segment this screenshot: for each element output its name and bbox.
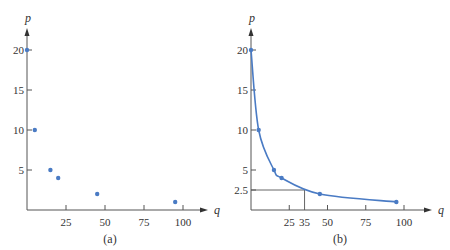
data-point [173, 200, 177, 204]
panel-caption: (b) [333, 232, 347, 246]
x-axis-arrow-icon [424, 208, 432, 213]
x-tick-label: 25 [284, 216, 296, 228]
figure: pq5101520255075100(a) pq2.55101520253550… [0, 0, 450, 250]
guide-lines [251, 190, 305, 210]
data-point [279, 176, 283, 180]
y-tick-label: 2.5 [234, 184, 248, 196]
x-tick-label: 75 [360, 216, 372, 228]
x-axis-arrow-icon [200, 208, 208, 213]
data-point [25, 48, 29, 52]
y-tick-label: 15 [13, 84, 25, 96]
y-axis-arrow-icon [25, 28, 30, 36]
y-tick-label: 10 [237, 124, 249, 136]
panel-caption: (a) [103, 232, 116, 246]
x-tick-label: 75 [139, 216, 151, 228]
x-tick-label: 25 [61, 216, 73, 228]
panel-a-scatter: pq5101520255075100(a) [13, 11, 220, 246]
x-tick-label: 100 [175, 216, 192, 228]
x-axis-label: q [438, 203, 444, 217]
data-point [256, 128, 260, 132]
y-axis-label: p [248, 11, 255, 25]
y-tick-label: 10 [13, 124, 25, 136]
data-point [33, 128, 37, 132]
y-tick-label: 20 [13, 44, 25, 56]
data-point [56, 176, 60, 180]
demand-curve [251, 50, 396, 202]
x-tick-label: 35 [299, 216, 311, 228]
y-tick-label: 5 [19, 164, 25, 176]
x-tick-label: 50 [322, 216, 334, 228]
y-tick-label: 20 [237, 44, 249, 56]
data-point [249, 48, 253, 52]
data-point [318, 192, 322, 196]
panel-b-curve: pq2.5510152025355075100(b) [234, 11, 444, 246]
y-axis-label: p [24, 11, 31, 25]
data-point [272, 168, 276, 172]
x-axis-label: q [214, 203, 220, 217]
x-tick-label: 100 [396, 216, 413, 228]
data-point [48, 168, 52, 172]
y-tick-label: 15 [237, 84, 249, 96]
data-point [394, 200, 398, 204]
x-tick-label: 50 [100, 216, 112, 228]
y-tick-label: 5 [243, 164, 249, 176]
y-axis-arrow-icon [249, 28, 254, 36]
data-point [95, 192, 99, 196]
